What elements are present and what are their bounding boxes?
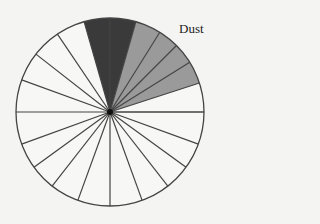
wheel-hub: [107, 109, 113, 115]
dust-label: Dust: [179, 21, 204, 37]
